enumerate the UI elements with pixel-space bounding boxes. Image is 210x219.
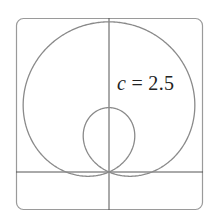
parameter-annotation: c = 2.5 xyxy=(117,72,174,95)
polar-plot xyxy=(0,0,210,219)
parameter-value: = 2.5 xyxy=(126,72,174,94)
parameter-var: c xyxy=(117,72,126,94)
